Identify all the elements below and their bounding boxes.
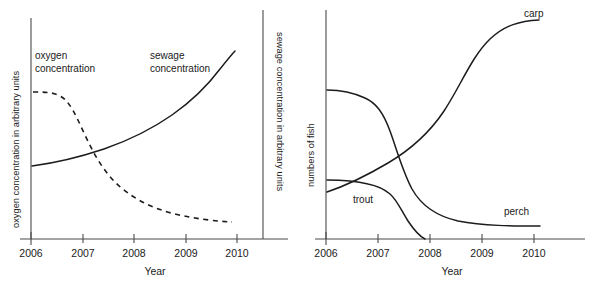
left-panel-oxygen-label-line1: oxygen [35, 50, 67, 61]
left-panel-sewage-label-line1: sewage [150, 50, 185, 61]
left-panel-sewage-label-line2: concentration [150, 63, 210, 74]
right-panel-trout-curve [327, 180, 425, 239]
left-panel-tick-label-2006: 2006 [19, 247, 43, 259]
left-panel-tick-label-2008: 2008 [122, 247, 146, 259]
left-panel-tick-label-2007: 2007 [71, 247, 95, 259]
left-panel-secondary-y-axis-title: sewage concentration in arbitrary units [275, 32, 285, 192]
right-panel-tick-label-2010: 2010 [522, 247, 546, 259]
right-panel-tick-label-2009: 2009 [470, 247, 494, 259]
left-panel-tick-label-2010: 2010 [225, 247, 249, 259]
right-panel-tick-label-2008: 2008 [418, 247, 442, 259]
right-panel-x-axis-title: Year [441, 265, 463, 277]
left-panel-tick-label-2009: 2009 [174, 247, 198, 259]
right-panel-y-axis-title: numbers of fish [306, 123, 316, 187]
left-panel-y-axis-title: oxygen concentration in arbitrary units [11, 71, 21, 228]
left-panel: 2006 2007 2008 2009 2010 Year oxygen con… [11, 10, 288, 277]
right-panel-tick-label-2007: 2007 [366, 247, 390, 259]
left-panel-oxygen-curve [33, 92, 232, 222]
right-panel-trout-label: trout [353, 194, 373, 205]
right-panel-carp-label: carp [524, 8, 544, 19]
left-panel-oxygen-label-line2: concentration [35, 63, 95, 74]
right-panel: 2006 2007 2008 2009 2010 Year numbers of… [306, 8, 585, 277]
right-panel-tick-label-2006: 2006 [314, 247, 338, 259]
left-panel-x-axis-title: Year [144, 265, 166, 277]
two-panel-line-chart-figure: 2006 2007 2008 2009 2010 Year oxygen con… [0, 0, 594, 283]
figure-svg: 2006 2007 2008 2009 2010 Year oxygen con… [0, 0, 594, 283]
right-panel-carp-curve [327, 20, 539, 192]
right-panel-perch-label: perch [504, 206, 529, 217]
